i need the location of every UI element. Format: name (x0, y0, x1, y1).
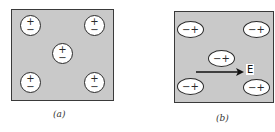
atom-polarized: − + (208, 50, 235, 67)
plus-sign: + (191, 24, 199, 36)
minus-sign: − (248, 24, 256, 36)
atom-unpolarized: + − (84, 15, 105, 36)
electric-field-label: E (246, 64, 254, 75)
minus-sign: − (21, 24, 40, 35)
atom-polarized: − + (177, 21, 204, 38)
plus-sign: + (257, 24, 265, 36)
minus-sign: − (85, 81, 104, 92)
caption-a: (a) (53, 109, 65, 119)
plus-sign: + (191, 81, 199, 93)
minus-sign: − (182, 81, 190, 93)
plus-sign: + (222, 53, 230, 65)
minus-sign: − (21, 81, 40, 92)
atom-unpolarized: + − (20, 72, 41, 93)
atom-polarized: − + (243, 21, 270, 38)
minus-sign: − (248, 82, 256, 94)
minus-sign: − (53, 52, 72, 63)
atom-polarized: − + (243, 79, 270, 96)
atom-polarized: − + (177, 78, 204, 95)
caption-b: (b) (216, 113, 229, 123)
plus-sign: + (257, 82, 265, 94)
minus-sign: − (213, 53, 221, 65)
electric-field-arrow-icon (196, 66, 246, 78)
atom-unpolarized: + − (84, 72, 105, 93)
minus-sign: − (182, 24, 190, 36)
atom-unpolarized: + − (20, 15, 41, 36)
minus-sign: − (85, 24, 104, 35)
atom-unpolarized: + − (52, 43, 73, 64)
